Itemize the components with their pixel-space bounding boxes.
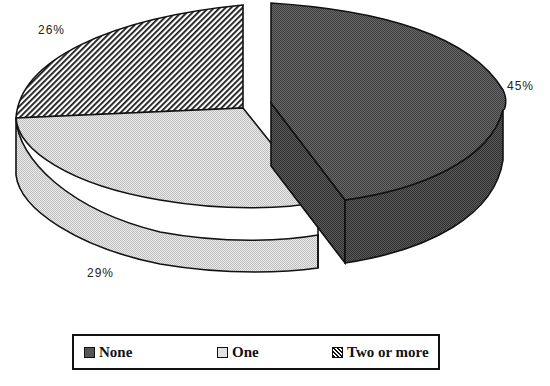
legend-item-one: One	[217, 344, 259, 361]
legend-label: One	[232, 344, 259, 361]
legend-item-none: None	[84, 344, 132, 361]
legend: None One Two or more	[72, 334, 440, 370]
pie-chart	[0, 0, 550, 330]
legend-item-two-or-more: Two or more	[332, 344, 429, 361]
legend-label: Two or more	[347, 344, 429, 361]
hatch-swatch-icon	[332, 347, 343, 358]
legend-label: None	[99, 344, 132, 361]
slice-none	[271, 3, 506, 263]
label-one-pct: 29%	[87, 266, 114, 280]
dark-swatch-icon	[84, 347, 95, 358]
label-none-pct: 45%	[507, 79, 534, 93]
light-swatch-icon	[217, 347, 228, 358]
label-two-or-more-pct: 26%	[38, 23, 65, 37]
slice-two-or-more	[16, 5, 243, 118]
